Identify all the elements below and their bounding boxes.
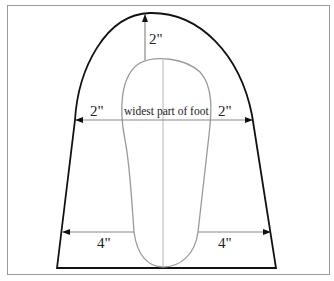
widest-part-label: widest part of foot — [124, 106, 209, 118]
toe-allowance-label: 2" — [149, 32, 163, 47]
outer-pattern-outline — [57, 13, 276, 268]
pattern-diagram — [0, 0, 334, 281]
heel-left-allowance-label: 4" — [97, 236, 111, 251]
heel-right-allowance-label: 4" — [218, 236, 232, 251]
left-allowance-label: 2" — [90, 104, 104, 119]
foot-outline — [122, 59, 211, 267]
right-allowance-label: 2" — [218, 104, 232, 119]
